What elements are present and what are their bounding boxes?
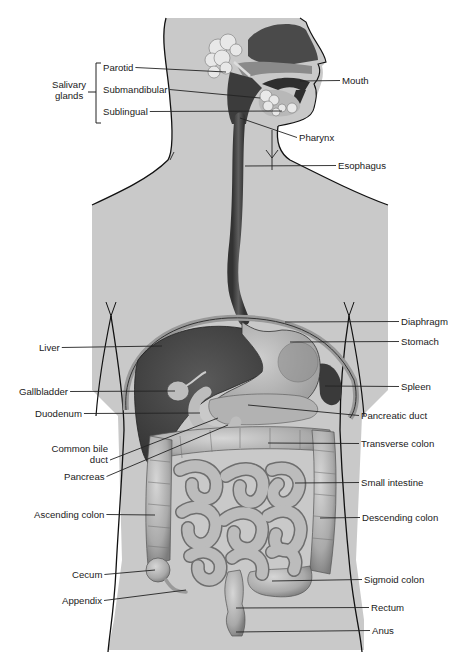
- label-appendix: Appendix: [62, 595, 102, 606]
- leader-sublingual: [150, 111, 282, 112]
- label-stomach: Stomach: [401, 336, 439, 347]
- leader-gallbladder: [70, 391, 175, 392]
- label-common-bile-duct: Common bile duct: [45, 443, 108, 465]
- label-common-bile-line2: duct: [45, 454, 108, 465]
- label-gallbladder: Gallbladder: [19, 386, 68, 397]
- leader-transverse-colon: [268, 443, 359, 444]
- leader-ascending-colon: [106, 515, 155, 516]
- label-liver: Liver: [39, 342, 60, 353]
- leader-descending-colon: [320, 518, 360, 519]
- label-spleen: Spleen: [401, 381, 431, 392]
- stomach-fundus: [278, 342, 318, 382]
- label-small-intestine: Small intestine: [361, 477, 423, 488]
- pancreas-shape: [209, 394, 318, 425]
- leader-stomach: [290, 342, 399, 343]
- digestive-system-diagram: Salivary glands Parotid Submandibular Su…: [0, 0, 466, 659]
- label-transverse-colon: Transverse colon: [361, 438, 434, 449]
- label-parotid: Parotid: [103, 62, 133, 73]
- label-pharynx: Pharynx: [299, 132, 334, 143]
- label-pancreatic-duct: Pancreatic duct: [361, 410, 427, 421]
- leader-small-intestine: [295, 483, 359, 484]
- label-rectum: Rectum: [371, 602, 404, 613]
- label-salivary-line2: glands: [52, 90, 86, 101]
- leader-duodenum: [84, 413, 200, 414]
- label-mouth: Mouth: [342, 75, 369, 86]
- leader-spleen: [325, 386, 399, 387]
- leader-diaphragm: [285, 322, 399, 323]
- label-diaphragm: Diaphragm: [401, 316, 448, 327]
- label-duodenum: Duodenum: [35, 408, 82, 419]
- label-esophagus: Esophagus: [338, 160, 386, 171]
- label-salivary-glands: Salivary glands: [52, 79, 86, 101]
- leader-rectum: [236, 608, 369, 609]
- label-common-bile-line1: Common bile: [45, 443, 108, 454]
- label-descending-colon: Descending colon: [362, 512, 438, 523]
- label-anus: Anus: [372, 625, 394, 636]
- label-sigmoid-colon: Sigmoid colon: [364, 574, 424, 585]
- label-ascending-colon: Ascending colon: [34, 509, 104, 520]
- label-salivary-line1: Salivary: [52, 79, 86, 90]
- label-pancreas: Pancreas: [64, 471, 105, 482]
- leader-mouth: [300, 81, 340, 82]
- label-cecum: Cecum: [72, 569, 102, 580]
- label-sublingual: Sublingual: [103, 106, 148, 117]
- salivary-bracket: [88, 63, 101, 123]
- leader-esophagus: [245, 166, 336, 167]
- label-submandibular: Submandibular: [103, 84, 168, 95]
